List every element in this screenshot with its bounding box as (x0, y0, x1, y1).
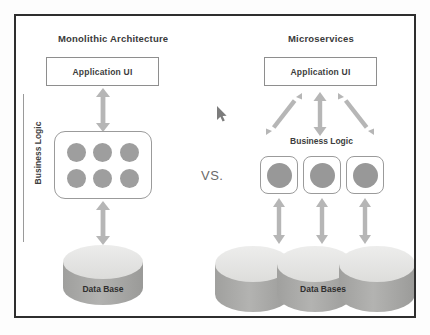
microservice-1-to-ui-arrow (266, 92, 302, 136)
microservice-box-2 (303, 156, 341, 194)
diagram-canvas: Monolithic Architecture Microservices Ap… (0, 0, 430, 335)
monolith-module-3 (120, 143, 139, 162)
monolithic-business-logic-label: Business Logic (33, 110, 47, 196)
monolithic-application-ui-box: Application UI (46, 57, 159, 86)
microservice-module-3 (353, 163, 378, 188)
monolithic-title: Monolithic Architecture (58, 33, 168, 44)
diagram-frame: Monolithic Architecture Microservices Ap… (14, 14, 416, 318)
business-logic-divider-rule (23, 94, 24, 242)
versus-label: VS. (201, 168, 223, 183)
monolith-module-2 (93, 143, 112, 162)
monolith-module-4 (67, 169, 86, 188)
monolithic-database-cylinder (62, 244, 144, 306)
monolith-ui-to-logic-arrow (95, 88, 111, 132)
microservice-box-1 (260, 156, 298, 194)
microservice-1-to-database-arrow (272, 198, 286, 244)
microservices-application-ui-box: Application UI (264, 57, 377, 86)
mouse-pointer-icon (216, 106, 228, 122)
monolith-logic-to-database-arrow (95, 201, 111, 245)
monolithic-logic-container (54, 131, 152, 199)
microservices-database-3 (339, 246, 415, 312)
microservices-title: Microservices (288, 33, 354, 44)
monolith-module-5 (93, 169, 112, 188)
monolithic-database-label: Data Base (62, 284, 144, 294)
microservices-business-logic-label: Business Logic (274, 136, 369, 146)
microservice-module-1 (267, 163, 292, 188)
monolith-module-6 (120, 169, 139, 188)
microservice-box-3 (346, 156, 384, 194)
microservice-2-to-database-arrow (315, 198, 329, 244)
microservices-database-cylinders (213, 242, 416, 318)
microservice-3-to-ui-arrow (338, 92, 374, 136)
microservice-2-to-ui-arrow (312, 92, 328, 136)
microservices-database-label: Data Bases (268, 284, 378, 294)
monolith-module-1 (67, 143, 86, 162)
microservice-module-2 (310, 163, 335, 188)
microservice-3-to-database-arrow (358, 198, 372, 244)
